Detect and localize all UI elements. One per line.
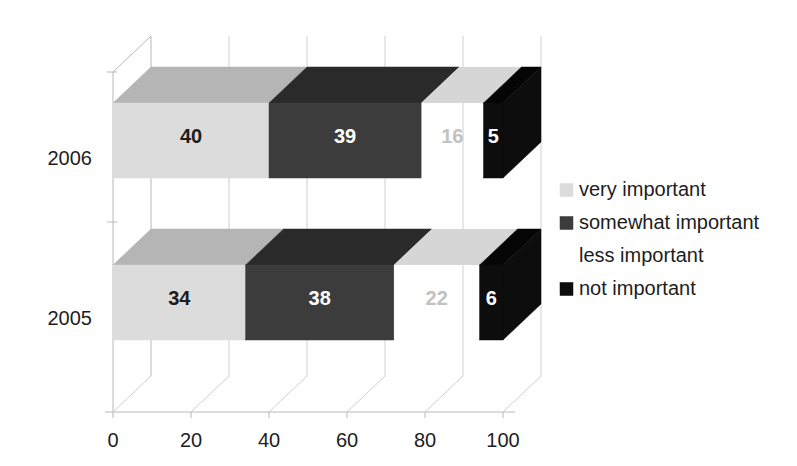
legend-swatch [560, 184, 573, 197]
stacked-bar-chart-3d: 40391653438226 020406080100 20062005 ver… [0, 0, 797, 466]
bar-segment-value: 40 [180, 125, 202, 147]
y-category-label: 2005 [48, 307, 93, 329]
x-tick-label: 60 [336, 429, 358, 451]
bar-segment-value: 6 [486, 287, 497, 309]
legend-swatch [560, 217, 573, 230]
legend-item[interactable]: somewhat important [560, 211, 760, 233]
x-tick-label: 40 [258, 429, 280, 451]
x-tick-label: 0 [107, 429, 118, 451]
bar-segment-value: 39 [334, 125, 356, 147]
legend-label: very important [579, 178, 706, 200]
bar-segment-value: 5 [488, 125, 499, 147]
legend-label: somewhat important [579, 211, 760, 233]
x-tick-label: 20 [180, 429, 202, 451]
bar-segment-value: 16 [441, 125, 463, 147]
x-axis-tick-labels: 020406080100 [107, 429, 519, 451]
chart-legend: very importantsomewhat importantless imp… [560, 178, 760, 299]
bar-segment-value: 38 [309, 287, 331, 309]
legend-item[interactable]: less important [560, 244, 704, 266]
chart-container: 40391653438226 020406080100 20062005 ver… [0, 0, 797, 466]
legend-item[interactable]: not important [560, 277, 696, 299]
y-axis-category-labels: 20062005 [48, 147, 93, 329]
legend-swatch [560, 250, 573, 263]
legend-swatch [560, 283, 573, 296]
bar-segment-value: 22 [426, 287, 448, 309]
bar-segment-value: 34 [168, 287, 191, 309]
y-category-label: 2006 [48, 147, 93, 169]
x-tick-label: 80 [414, 429, 436, 451]
legend-item[interactable]: very important [560, 178, 706, 200]
legend-label: less important [579, 244, 704, 266]
legend-label: not important [579, 277, 696, 299]
x-tick-label: 100 [486, 429, 519, 451]
